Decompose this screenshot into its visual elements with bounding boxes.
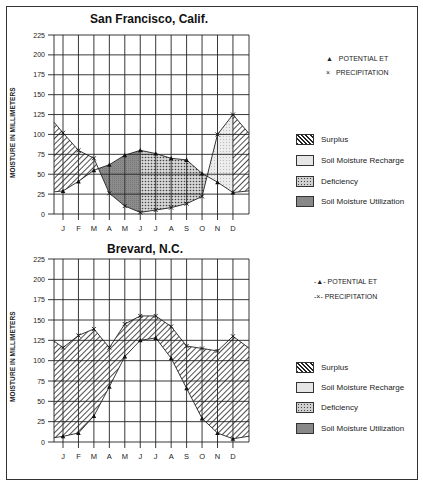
legend-precipitation: × PRECIPITATION [326,69,389,76]
svg-text:S: S [184,452,189,461]
legend-potential-et: ▲ POTENTIAL ET [326,55,388,62]
legend-utilization: Soil Moisture Utilization [296,196,404,207]
svg-text:225: 225 [33,256,45,263]
svg-text:D: D [230,452,236,461]
svg-text:J: J [154,452,158,461]
svg-text:F: F [76,452,81,461]
svg-text:D: D [230,224,236,233]
svg-text:75: 75 [37,378,45,385]
svg-text:25: 25 [37,418,45,425]
svg-text:25: 25 [37,191,45,198]
svg-text:200: 200 [33,276,45,283]
line-x-marker-icon: -×- [314,293,323,300]
svg-text:F: F [76,224,81,233]
svg-text:175: 175 [33,296,45,303]
deficiency-swatch [296,402,314,413]
svg-text:50: 50 [37,398,45,405]
svg-text:A: A [169,452,174,461]
svg-text:100: 100 [33,131,45,138]
line-triangle-marker-icon: -▲- [314,278,326,285]
svg-text:100: 100 [33,357,45,364]
y-axis-label: MOISTURE IN MILLIMETERS [9,87,16,178]
svg-text:0: 0 [41,439,45,446]
svg-text:225: 225 [33,32,45,39]
svg-text:M: M [122,224,128,233]
svg-text:M: M [122,452,128,461]
svg-text:O: O [199,452,205,461]
legend-utilization: Soil Moisture Utilization [296,423,404,434]
legend-potential-et: -▲- POTENTIAL ET [314,278,377,285]
legend-deficiency: Deficiency [296,402,358,413]
triangle-marker-icon: ▲ [326,55,333,62]
svg-text:150: 150 [33,317,45,324]
svg-text:75: 75 [37,151,45,158]
svg-text:O: O [199,224,205,233]
svg-text:A: A [169,224,174,233]
svg-text:J: J [138,224,142,233]
x-marker-icon: × [326,69,330,76]
legend-recharge: Soil Moisture Recharge [296,382,404,393]
y-axis-label: MOISTURE IN MILLIMETERS [9,311,16,402]
svg-text:S: S [184,224,189,233]
recharge-swatch [296,155,314,166]
legend-precipitation: -×- PRECIPITATION [314,293,377,300]
svg-text:125: 125 [33,111,45,118]
brevard-chart: 0255075100125150175200225JFMAMJJASOND [33,256,249,462]
deficiency-swatch [296,176,314,187]
svg-text:125: 125 [33,337,45,344]
svg-text:A: A [107,224,112,233]
surplus-swatch [296,134,314,145]
san-francisco-chart: 0255075100125150175200225JFMAMJJASOND [33,32,249,234]
svg-text:M: M [91,452,97,461]
svg-text:A: A [107,452,112,461]
chart-title-san-francisco: San Francisco, Calif. [90,12,208,26]
legend-recharge: Soil Moisture Recharge [296,155,404,166]
legend-surplus: Surplus [296,134,348,145]
svg-text:200: 200 [33,51,45,58]
surplus-swatch [296,362,314,373]
svg-text:M: M [91,224,97,233]
utilization-swatch [296,423,314,434]
svg-text:J: J [154,224,158,233]
svg-text:50: 50 [37,171,45,178]
svg-text:J: J [61,224,65,233]
svg-text:N: N [215,224,220,233]
utilization-swatch [296,196,314,207]
svg-text:N: N [215,452,220,461]
svg-text:0: 0 [41,211,45,218]
legend-deficiency: Deficiency [296,176,358,187]
svg-text:J: J [61,452,65,461]
svg-text:150: 150 [33,91,45,98]
chart-title-brevard: Brevard, N.C. [107,242,183,256]
svg-text:175: 175 [33,71,45,78]
recharge-swatch [296,382,314,393]
legend-surplus: Surplus [296,362,348,373]
svg-text:J: J [138,452,142,461]
